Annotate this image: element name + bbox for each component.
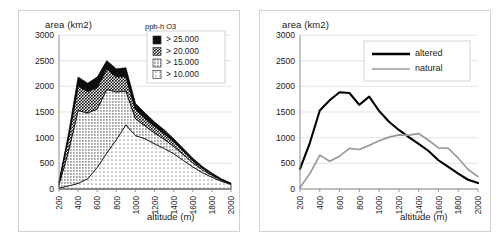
left-legend-item: > 15.000 [166,57,199,67]
left-x-tick: 1800 [208,196,217,215]
right-x-tick: 600 [336,196,345,210]
left-plot-svg: 050010001500200025003000 200400600800100… [19,11,241,233]
chart-panel-stacked-area: area (km2) ppb-h O3 altitude (m) [18,10,240,232]
left-x-tick: 2000 [227,196,236,215]
right-legend: alterednatural [364,41,470,81]
right-y-tick-labels: 050010001500200025003000 [276,30,295,194]
right-y-tick: 2000 [276,81,295,91]
right-y-axis-title: area (km2) [282,19,329,30]
right-x-tick: 1000 [375,196,384,215]
right-x-tick-labels: 200400600800100012001400160018002000 [296,196,483,215]
chart-panel-line: area (km2) altitude (m) 0500100015002000… [259,10,491,232]
left-x-tick: 400 [74,196,83,210]
left-x-tick: 1000 [132,196,141,215]
right-y-tick: 3000 [276,30,295,40]
left-y-axis-title: area (km2) [45,19,92,30]
left-y-tick: 2000 [35,81,54,91]
left-x-tick: 600 [93,196,102,210]
left-y-tick: 2500 [35,56,54,66]
left-legend-title: ppb-h O3 [145,22,176,31]
line-chart: area (km2) altitude (m) 0500100015002000… [260,11,490,231]
left-legend-item: > 20.000 [166,46,199,56]
left-y-tick: 3000 [35,30,54,40]
left-x-tick: 200 [55,196,64,210]
left-legend-item: > 25.000 [166,34,199,44]
left-y-tick: 0 [49,184,54,194]
left-x-axis-title: altitude (m) [147,211,195,222]
right-y-tick: 2500 [276,56,295,66]
right-x-tick: 400 [316,196,325,210]
right-y-tick: 0 [290,184,295,194]
right-plot-svg: 050010001500200025003000 200400600800100… [260,11,492,233]
right-y-tick: 1000 [276,133,295,143]
left-y-tick: 500 [40,158,55,168]
stacked-area-chart: area (km2) ppb-h O3 altitude (m) [19,11,239,231]
left-x-tick-labels: 200400600800100012001400160018002000 [55,196,236,215]
right-x-axis-title: altitude (m) [400,211,448,222]
right-x-tick: 2000 [474,196,483,215]
left-legend: > 25.000> 20.000> 15.000> 10.000 [147,31,225,83]
right-line-series [300,92,478,187]
figure-canvas: area (km2) ppb-h O3 altitude (m) [0,0,500,240]
left-y-tick: 1500 [35,107,54,117]
right-y-tick: 1500 [276,107,295,117]
left-y-tick: 1000 [35,133,54,143]
left-legend-item: > 10.000 [166,69,199,79]
right-x-tick: 800 [356,196,365,210]
right-series-natural [300,134,478,188]
left-y-tick-labels: 050010001500200025003000 [35,30,54,194]
right-legend-item: altered [415,48,443,58]
right-x-tick: 1800 [454,196,463,215]
right-legend-item: natural [415,63,443,73]
left-x-tick: 800 [113,196,122,210]
right-y-tick: 500 [281,158,296,168]
right-x-tick: 200 [296,196,305,210]
